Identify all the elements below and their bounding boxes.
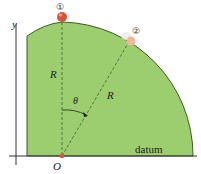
origin-label: O	[53, 160, 61, 172]
datum-label: datum	[135, 143, 163, 155]
radius-label-slanted: R	[106, 89, 114, 101]
origin-point	[60, 154, 65, 159]
ball-position-1	[57, 12, 67, 22]
ball-1-highlight	[59, 13, 62, 16]
quarter-circle-diagram: y ① ② R R θ O datum	[0, 0, 201, 174]
position-2-label: ②	[132, 26, 140, 36]
position-1-label: ①	[56, 2, 64, 12]
ball-position-2	[127, 37, 136, 46]
angle-label: θ	[73, 95, 78, 106]
radius-label-vertical: R	[49, 68, 57, 80]
y-axis-label: y	[11, 18, 17, 30]
